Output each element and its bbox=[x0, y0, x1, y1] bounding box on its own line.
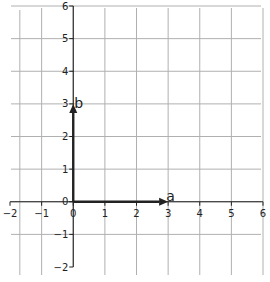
vector-b: b bbox=[69, 95, 83, 202]
vector-label-a: a bbox=[166, 188, 175, 204]
x-tick-label: 4 bbox=[197, 208, 203, 219]
y-tick-label: −2 bbox=[54, 262, 69, 273]
x-tick-label: 1 bbox=[102, 208, 108, 219]
y-tick-label: 6 bbox=[62, 1, 68, 12]
x-tick-label: 2 bbox=[133, 208, 139, 219]
x-tick-label: 6 bbox=[260, 208, 266, 219]
y-tick-label: 4 bbox=[62, 66, 68, 77]
y-tick-label: 2 bbox=[62, 131, 68, 142]
x-tick-label: 5 bbox=[228, 208, 234, 219]
vector-label-b: b bbox=[74, 95, 83, 111]
y-tick-label: 3 bbox=[62, 98, 68, 109]
x-tick-label: −1 bbox=[34, 208, 49, 219]
vector-plot: −2−10123456−2−10123456 ab bbox=[0, 0, 270, 282]
vector-a: a bbox=[73, 188, 174, 206]
y-tick-label: 0 bbox=[62, 196, 68, 207]
y-tick-label: 5 bbox=[62, 33, 68, 44]
x-tick-label: −2 bbox=[3, 208, 18, 219]
vectors: ab bbox=[69, 95, 174, 206]
y-tick-label: −1 bbox=[54, 229, 69, 240]
y-tick-label: 1 bbox=[62, 164, 68, 175]
x-tick-label: 3 bbox=[165, 208, 171, 219]
grid-lines bbox=[11, 6, 263, 275]
x-tick-label: 0 bbox=[70, 208, 76, 219]
